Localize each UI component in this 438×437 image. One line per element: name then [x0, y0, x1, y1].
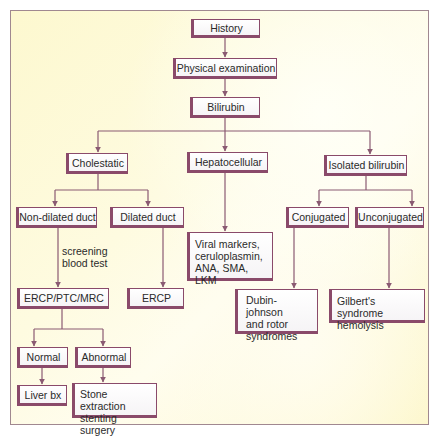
node-gilbert-line-2: hemolysis	[337, 319, 419, 331]
node-hepatocellular: Hepatocellular	[187, 152, 268, 173]
edge-label-screening-line-1: screening	[62, 245, 108, 257]
node-non-dilated-duct-label: Non-dilated duct	[19, 211, 95, 223]
node-physical-examination-label: Physical examination	[177, 62, 276, 74]
node-ercp-label: ERCP	[142, 292, 171, 304]
node-non-dilated-duct: Non-dilated duct	[16, 207, 97, 228]
node-history-label: History	[210, 22, 243, 34]
node-hepatocellular-label: Hepatocellular	[195, 156, 262, 168]
node-physical-examination: Physical examination	[173, 58, 277, 79]
node-cholestatic: Cholestatic	[66, 153, 128, 174]
node-ercp: ERCP	[127, 288, 184, 309]
node-isolated-bilirubin-label: Isolated bilirubin	[329, 159, 405, 171]
node-viral-markers-line-2: ceruloplasmin,	[195, 250, 267, 262]
edge-label-screening: screening blood test	[62, 245, 108, 269]
node-viral-markers: Viral markers, ceruloplasmin, ANA, SMA, …	[187, 232, 273, 281]
node-cholestatic-label: Cholestatic	[72, 157, 124, 169]
node-dubin-johnson-line-3: syndromes	[246, 330, 312, 342]
node-gilbert: Gilbert's syndrome hemolysis	[329, 289, 425, 323]
node-stone-extraction: Stone extraction stenting surgery	[72, 383, 157, 418]
edge-label-screening-line-2: blood test	[62, 257, 108, 269]
node-stone-extraction-line-2: stenting surgery	[80, 412, 151, 436]
node-abnormal-label: Abnormal	[82, 351, 127, 363]
node-dubin-johnson-line-1: Dubin-johnson	[246, 294, 312, 318]
node-normal-label: Normal	[27, 351, 61, 363]
node-bilirubin: Bilirubin	[190, 97, 260, 118]
node-abnormal: Abnormal	[75, 347, 131, 368]
node-liver-bx-label: Liver bx	[25, 389, 62, 401]
node-conjugated-label: Conjugated	[292, 211, 346, 223]
node-unconjugated: Unconjugated	[355, 207, 424, 228]
node-normal: Normal	[17, 347, 68, 368]
node-stone-extraction-line-1: Stone extraction	[80, 388, 151, 412]
node-liver-bx: Liver bx	[17, 385, 67, 406]
node-unconjugated-label: Unconjugated	[358, 211, 423, 223]
node-conjugated: Conjugated	[286, 207, 349, 228]
node-dubin-johnson: Dubin-johnson and rotor syndromes	[235, 289, 318, 334]
node-dilated-duct-label: Dilated duct	[120, 211, 175, 223]
node-dubin-johnson-line-2: and rotor	[246, 318, 312, 330]
node-gilbert-line-1: Gilbert's syndrome	[337, 295, 419, 319]
node-viral-markers-line-1: Viral markers,	[195, 238, 267, 250]
node-dilated-duct: Dilated duct	[110, 207, 184, 228]
node-history: History	[191, 19, 260, 38]
node-bilirubin-label: Bilirubin	[207, 101, 244, 113]
node-viral-markers-line-3: ANA, SMA, LKM	[195, 262, 267, 286]
node-ercp-ptc-mrc-label: ERCP/PTC/MRC	[24, 292, 104, 304]
node-ercp-ptc-mrc: ERCP/PTC/MRC	[17, 288, 109, 309]
node-isolated-bilirubin: Isolated bilirubin	[324, 155, 407, 176]
